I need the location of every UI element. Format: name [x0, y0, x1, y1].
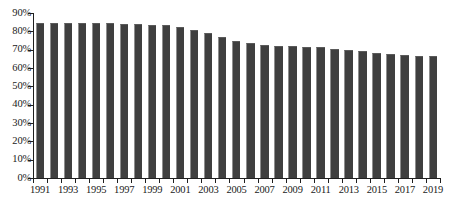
x-axis-tick: [75, 179, 76, 183]
y-axis-tick-label: 10%: [1, 154, 31, 165]
x-axis-tick: [356, 179, 357, 183]
x-axis-tick: [314, 179, 315, 183]
x-axis-tick: [201, 179, 202, 183]
x-axis-tick: [215, 179, 216, 183]
bar: [274, 46, 282, 178]
y-axis-tick-label: 20%: [1, 136, 31, 147]
x-axis-tick: [244, 179, 245, 183]
bar-slot: [244, 13, 258, 178]
x-axis-tick: [272, 179, 273, 183]
bar-slot: [426, 13, 440, 178]
bar: [92, 23, 100, 178]
bar-slot: [131, 13, 145, 178]
x-axis-tick: [173, 179, 174, 183]
bar: [415, 56, 423, 178]
x-axis-tick: [145, 179, 146, 183]
bar-slot: [356, 13, 370, 178]
bar: [386, 54, 394, 178]
bar: [176, 27, 184, 178]
bar: [400, 55, 408, 178]
bar-series: [33, 13, 440, 178]
y-axis-tick: [28, 178, 33, 179]
x-axis-tick: [131, 179, 132, 183]
y-axis-tick: [28, 31, 33, 32]
y-axis-tick: [28, 123, 33, 124]
y-axis-tick-label: 90%: [1, 8, 31, 19]
y-axis-labels: 0%10%20%30%40%50%60%70%80%90%: [0, 0, 31, 206]
x-axis-tick: [370, 179, 371, 183]
x-axis-tick: [89, 179, 90, 183]
bar-slot: [75, 13, 89, 178]
bar-slot: [103, 13, 117, 178]
bar: [246, 43, 254, 178]
y-axis-tick: [28, 141, 33, 142]
x-axis-tick: [33, 179, 34, 183]
x-axis-tick: [426, 179, 427, 183]
x-axis-tick: [398, 179, 399, 183]
y-axis-tick-label: 40%: [1, 99, 31, 110]
y-axis-tick-label: 0%: [1, 173, 31, 184]
y-axis-tick: [28, 68, 33, 69]
x-axis-tick: [117, 179, 118, 183]
x-axis-tick: [440, 179, 441, 183]
x-axis-tick: [229, 179, 230, 183]
bar-slot: [47, 13, 61, 178]
plot-area: [33, 13, 440, 178]
bar-slot: [187, 13, 201, 178]
bar-slot: [201, 13, 215, 178]
bar: [134, 24, 142, 178]
bar: [78, 23, 86, 178]
bar: [358, 51, 366, 178]
bar: [204, 33, 212, 178]
bar-slot: [61, 13, 75, 178]
bar: [120, 24, 128, 178]
bar-slot: [384, 13, 398, 178]
bar-slot: [328, 13, 342, 178]
bar: [64, 23, 72, 178]
bar: [218, 37, 226, 178]
bar: [162, 25, 170, 178]
y-axis-tick-label: 50%: [1, 81, 31, 92]
bar-slot: [370, 13, 384, 178]
y-axis-tick: [28, 86, 33, 87]
x-axis-tick: [159, 179, 160, 183]
y-axis-tick-label: 80%: [1, 26, 31, 37]
x-axis-tick: [328, 179, 329, 183]
bar: [330, 49, 338, 178]
x-axis-tick: [258, 179, 259, 183]
bar-slot: [272, 13, 286, 178]
x-axis-tick: [47, 179, 48, 183]
bar-chart: 0%10%20%30%40%50%60%70%80%90% 1991199319…: [0, 0, 451, 206]
x-axis-tick: [103, 179, 104, 183]
bar-slot: [342, 13, 356, 178]
x-axis-tick: [187, 179, 188, 183]
bar: [316, 47, 324, 178]
y-axis-tick: [28, 160, 33, 161]
bar-slot: [314, 13, 328, 178]
bar: [302, 47, 310, 178]
y-axis-tick-label: 70%: [1, 44, 31, 55]
bar-slot: [89, 13, 103, 178]
bar: [232, 41, 240, 179]
bar: [190, 30, 198, 179]
y-axis-tick: [28, 105, 33, 106]
bar: [288, 46, 296, 178]
bar: [344, 50, 352, 178]
y-axis-tick-label: 60%: [1, 63, 31, 74]
x-axis-tick: [61, 179, 62, 183]
bar-slot: [398, 13, 412, 178]
bar: [429, 56, 437, 178]
bar-slot: [159, 13, 173, 178]
bar-slot: [33, 13, 47, 178]
x-axis-tick: [412, 179, 413, 183]
bar: [260, 45, 268, 178]
x-axis-tick: [342, 179, 343, 183]
bar: [148, 25, 156, 178]
x-axis-tick: [286, 179, 287, 183]
x-axis-labels: 1991199319951997199920012003200520072009…: [0, 184, 451, 202]
bar-slot: [215, 13, 229, 178]
bar-slot: [286, 13, 300, 178]
bar-slot: [300, 13, 314, 178]
x-axis-ticks: [33, 179, 441, 183]
y-axis-tick-label: 30%: [1, 118, 31, 129]
